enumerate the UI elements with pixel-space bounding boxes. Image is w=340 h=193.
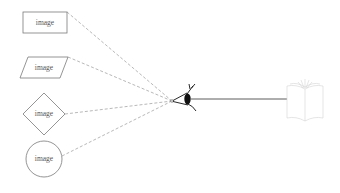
shape-circle-label: image <box>35 154 54 163</box>
shape-parallelogram: image <box>20 57 68 78</box>
shape-diamond-label: image <box>35 109 54 118</box>
shape-rectangle: image <box>23 12 67 33</box>
shape-parallelogram-label: image <box>35 63 54 72</box>
eye-icon <box>171 84 196 111</box>
shape-circle: image <box>26 141 62 177</box>
connector-rectangle-to-eye <box>67 12 172 101</box>
shape-rectangle-label: image <box>36 18 55 27</box>
shape-diamond: image <box>23 93 65 135</box>
dashed-connectors <box>62 12 172 156</box>
connector-diamond-to-eye <box>65 101 172 114</box>
connector-circle-to-eye <box>62 101 172 156</box>
connector-parallelogram-to-eye <box>68 57 172 101</box>
diagram-canvas: image image image image <box>0 0 340 193</box>
open-book-icon <box>287 79 323 121</box>
